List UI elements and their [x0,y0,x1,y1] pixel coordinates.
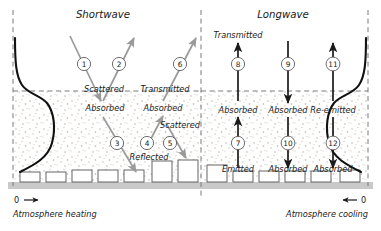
badge-1-label: 1 [82,60,87,69]
label-sw-transmitted-top: Transmitted [140,84,190,94]
cooling-zero-label: 0 [361,195,366,205]
badge-4-label: 4 [145,139,150,148]
building [20,172,40,182]
label-sw-scattered-top: Scattered [84,84,125,94]
label-sw-absorbed-mid: Absorbed [143,103,184,113]
badge-5-label: 5 [168,139,173,148]
badge-10-label: 10 [283,139,293,148]
badge-8-label: 8 [236,60,241,69]
label-sw-scattered-mid: Scattered [160,120,201,130]
building [178,160,198,182]
label-lw-absorbed-12: Absorbed [313,164,354,174]
building [152,161,172,182]
label-lw-reemitted-11: Re-emitted [310,105,356,115]
cooling-axis-label: Atmosphere cooling [285,209,368,219]
badge-6-label: 6 [178,60,183,69]
heating-zero-label: 0 [14,195,19,205]
longwave-header: Longwave [257,9,309,20]
label-lw-transmitted: Transmitted [213,30,263,40]
building [124,170,144,182]
badge-11-label: 11 [328,60,338,69]
badge-3-label: 3 [115,139,120,148]
label-lw-absorbed-8: Absorbed [218,105,259,115]
heating-axis: 0 Atmosphere heating [12,195,97,219]
badge-12-label: 12 [328,139,337,148]
cooling-axis: 0 Atmosphere cooling [285,195,368,219]
radiation-budget-diagram: Shortwave Longwave 1 2 6 3 4 5 Scattered… [0,0,381,231]
label-lw-absorbed-9: Absorbed [268,105,309,115]
label-sw-absorbed-left: Absorbed [85,103,126,113]
label-lw-absorbed-10: Absorbed [268,164,309,174]
building [98,170,118,182]
badge-9-label: 9 [286,60,291,69]
shortwave-header: Shortwave [76,9,130,20]
ground-surface [8,182,373,189]
badge-7-label: 7 [236,139,241,148]
label-sw-reflected: Reflected [130,152,170,162]
heating-axis-label: Atmosphere heating [12,209,97,219]
building [46,172,66,182]
badge-2-label: 2 [117,60,122,69]
building [72,170,92,182]
label-lw-emitted-7: Emitted [222,164,255,174]
